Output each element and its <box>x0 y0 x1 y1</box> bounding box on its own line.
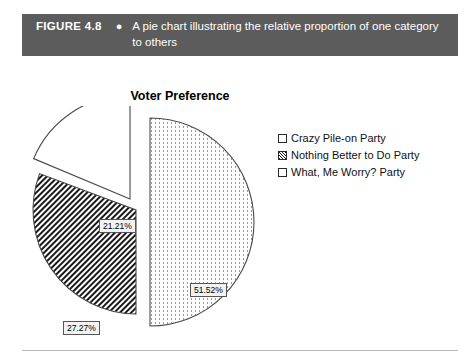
legend-item-nothing-better: Nothing Better to Do Party <box>278 147 419 163</box>
legend-item-what-me-worry: What, Me Worry? Party <box>278 164 419 180</box>
slice-value-label: 21.21% <box>99 219 136 233</box>
legend-item-label: Nothing Better to Do Party <box>291 149 419 162</box>
slice-value-label: 27.27% <box>63 321 100 335</box>
figure-number-label: FIGURE 4.8 <box>36 19 102 34</box>
bottom-divider <box>22 350 458 351</box>
bullet-icon: ● <box>116 19 123 34</box>
legend-item-crazy-pile-on: Crazy Pile-on Party <box>278 130 419 146</box>
figure-caption-text: A pie chart illustrating the relative pr… <box>132 19 448 50</box>
figure-caption-bar: FIGURE 4.8 ● A pie chart illustrating th… <box>22 14 458 56</box>
pie-chart: Voter Preference 21.21% 27.27% 51.52% Cr <box>0 56 476 336</box>
legend-swatch-icon <box>278 151 287 160</box>
chart-legend: Crazy Pile-on Party Nothing Better to Do… <box>278 130 419 181</box>
legend-item-label: Crazy Pile-on Party <box>291 132 386 145</box>
slice-value-label: 51.52% <box>190 283 227 297</box>
legend-swatch-icon <box>278 134 287 143</box>
legend-swatch-icon <box>278 168 287 177</box>
chart-title: Voter Preference <box>100 89 260 103</box>
legend-item-label: What, Me Worry? Party <box>291 166 405 179</box>
pie-chart-graphic <box>14 106 274 336</box>
